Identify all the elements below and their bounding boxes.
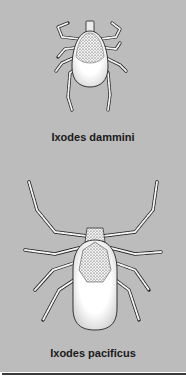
bottom-rule bbox=[2, 373, 186, 375]
ixodes-pacificus-illustration bbox=[15, 170, 175, 340]
ixodes-dammini-illustration bbox=[40, 15, 140, 120]
figure-panel: Ixodes dammini bbox=[0, 0, 186, 372]
specimen-label-pacificus: Ixodes pacificus bbox=[0, 347, 186, 359]
specimen-label-dammini: Ixodes dammini bbox=[0, 131, 186, 143]
